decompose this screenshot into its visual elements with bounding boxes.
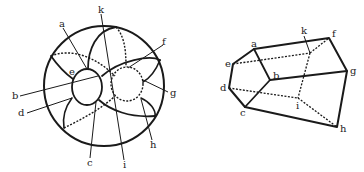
right-labels: a e b d c k f g i h <box>220 25 357 134</box>
edge-a-b <box>254 49 270 80</box>
left-inner-oval <box>72 69 102 105</box>
label-k: k <box>98 4 105 15</box>
label-g: g <box>350 65 357 76</box>
arc-top-to-left-oval <box>88 27 116 69</box>
label-i: i <box>296 100 299 111</box>
outer-hull <box>229 38 347 127</box>
figure-canvas: a k e b d c i f g h a e b d c k f g i <box>0 0 364 172</box>
leader-k-i <box>101 14 124 160</box>
leader-b <box>20 76 98 96</box>
label-d: d <box>220 82 227 93</box>
left-leader-lines <box>20 14 168 160</box>
label-h: h <box>150 139 157 150</box>
label-i: i <box>123 159 126 170</box>
dotted-top-arc <box>116 27 126 67</box>
label-h: h <box>340 123 347 134</box>
label-f: f <box>162 36 167 47</box>
label-c: c <box>87 157 93 168</box>
band-lower-dotted <box>64 96 115 128</box>
leader-k <box>304 36 310 53</box>
right-inner-oval <box>111 67 143 101</box>
edge-b-c <box>245 80 270 107</box>
edge-b-g <box>270 71 347 80</box>
sphere-projection <box>44 26 164 146</box>
label-b: b <box>273 70 279 81</box>
label-c: c <box>240 107 246 118</box>
outer-circle <box>44 26 164 146</box>
edge-d-i <box>229 88 298 98</box>
label-g: g <box>170 87 177 98</box>
label-a: a <box>251 38 257 49</box>
leader-c <box>90 102 96 158</box>
label-f: f <box>332 28 337 39</box>
band-right-down <box>143 60 160 82</box>
label-b: b <box>12 90 18 101</box>
label-e: e <box>69 66 75 77</box>
label-k: k <box>301 25 308 36</box>
label-e: e <box>225 58 231 69</box>
band-lower-left <box>63 98 72 128</box>
polyhedron-wireframe <box>229 36 347 127</box>
label-a: a <box>59 18 65 29</box>
label-d: d <box>18 107 25 118</box>
